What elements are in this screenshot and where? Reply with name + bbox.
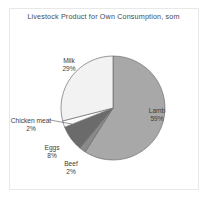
slice-label-chicken-meat-pct: 2% xyxy=(10,125,52,133)
slice-label-lamb: Lamb 59% xyxy=(140,107,174,123)
pie-chart-plot xyxy=(0,0,207,200)
slice-label-milk-name: Milk xyxy=(63,57,75,64)
slice-label-chicken-meat-name: Chicken meat xyxy=(11,117,51,124)
slice-label-lamb-name: Lamb xyxy=(149,107,166,114)
slice-label-beef-name: Beef xyxy=(64,160,78,167)
slice-label-milk-pct: 29% xyxy=(52,65,86,73)
slice-label-milk: Milk 29% xyxy=(52,57,86,73)
slice-label-beef: Beef 2% xyxy=(57,160,85,176)
slice-label-eggs-name: Eggs xyxy=(44,144,59,151)
slice-label-eggs: Eggs 8% xyxy=(38,144,66,160)
slice-label-chicken-meat: Chicken meat 2% xyxy=(10,117,52,133)
slice-label-lamb-pct: 59% xyxy=(140,115,174,123)
slice-label-beef-pct: 2% xyxy=(57,168,85,176)
pie-chart-figure: Livestock Product for Own Consumption, s… xyxy=(0,0,207,200)
